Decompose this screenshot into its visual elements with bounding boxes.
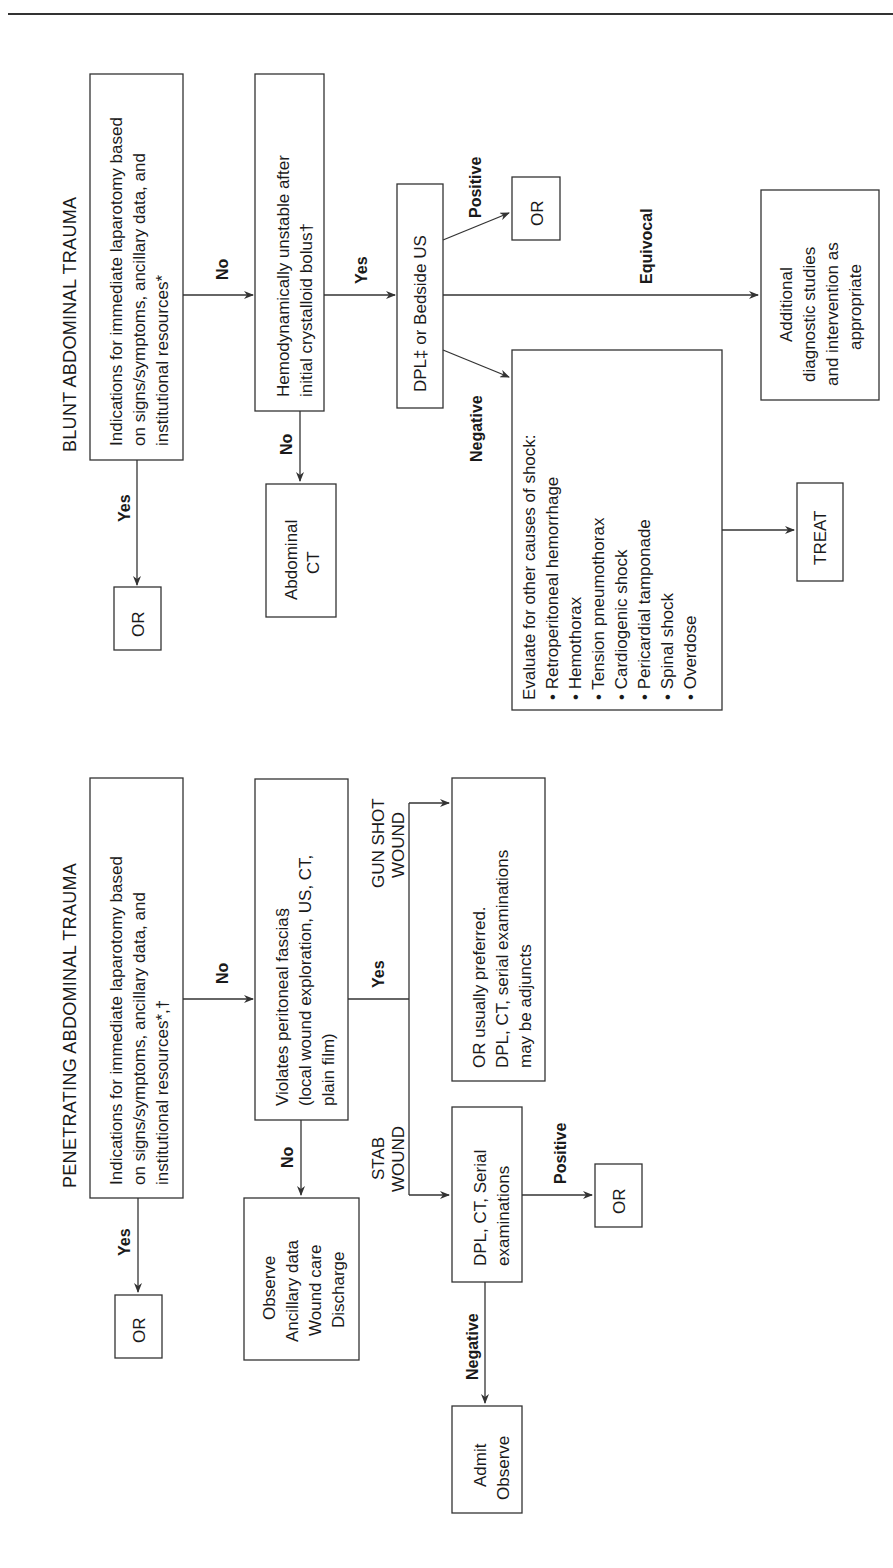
evaluate-item: • Spinal shock (658, 592, 677, 700)
abdominal-ct-line-2: CT (304, 551, 323, 574)
penetrating-yes-label: Yes (116, 1228, 133, 1256)
stab-label-line-1: STAB (369, 1137, 388, 1180)
violates-line-2: (local wound exploration, US, CT, (296, 855, 315, 1106)
evaluate-heading: Evaluate for other causes of shock: (520, 434, 539, 700)
blunt-or2-text: OR (528, 201, 547, 227)
abdominal-ct-line-1: Abdominal (282, 520, 301, 600)
blunt-indications-line-2: on signs/symptoms, ancillary data, and (130, 153, 149, 446)
gunshot-box-line-3: may be adjuncts (516, 944, 535, 1068)
dpl-ct-line-1: DPL, CT, Serial (471, 1150, 490, 1266)
gunshot-label-line-2: WOUND (389, 812, 408, 878)
violates-no-label: No (279, 1146, 296, 1168)
evaluate-item: • Tension pneumothorax (589, 517, 608, 700)
gunshot-box-line-1: OR usually preferred. (470, 906, 489, 1068)
evaluate-item: • Hemothorax (566, 596, 585, 700)
penetrating-or-text: OR (130, 1318, 149, 1344)
blunt-indications-line-3: institutional resources* (153, 275, 172, 446)
violates-line-3: plain film) (319, 1033, 338, 1106)
additional-line-2: diagnostic studies (800, 247, 819, 382)
blunt-title: BLUNT ABDOMINAL TRAUMA (60, 197, 80, 452)
hemodynamic-no-label: No (278, 433, 295, 455)
dpl-equivocal-label: Equivocal (638, 208, 655, 284)
evaluate-item: • Retroperitoneal hemorrhage (543, 477, 562, 700)
stab-negative-label: Negative (464, 1313, 481, 1380)
gunshot-box-line-2: DPL, CT, serial examinations (493, 850, 512, 1068)
dpl-positive-label: Positive (467, 157, 484, 218)
observe-line-1: Observe (260, 1256, 279, 1320)
penetrating-indications-line-1: Indications for immediate laparotomy bas… (107, 856, 126, 1185)
evaluate-item: • Overdose (681, 616, 700, 700)
additional-line-1: Additional (777, 267, 796, 342)
penetrating-indications-line-2: on signs/symptoms, ancillary data, and (130, 892, 149, 1185)
penetrating-title: PENETRATING ABDOMINAL TRAUMA (60, 863, 80, 1188)
dpl-ct-line-2: examinations (494, 1166, 513, 1266)
admit-line-1: Admit (471, 1443, 490, 1487)
observe-line-2: Ancillary data (283, 1239, 302, 1342)
dpl-negative-arrow (443, 350, 509, 377)
gunshot-label-line-1: GUN SHOT (369, 798, 388, 888)
hemodynamic-line-2: initial crystalloid bolus† (297, 223, 316, 397)
abdominal-ct-box (266, 484, 336, 617)
stab-label-line-2: WOUND (389, 1126, 408, 1192)
penetrating-or2-text: OR (610, 1189, 629, 1215)
dpl-negative-label: Negative (468, 395, 485, 462)
trauma-flowchart: BLUNT ABDOMINAL TRAUMA Indications for i… (0, 0, 893, 1568)
admit-line-2: Observe (494, 1436, 513, 1500)
hemodynamic-line-1: Hemodynamically unstable after (274, 155, 293, 397)
violates-yes-label: Yes (370, 960, 387, 988)
blunt-section: BLUNT ABDOMINAL TRAUMA Indications for i… (60, 74, 879, 710)
dpl-bedside-us-text: DPL‡ or Bedside US (411, 235, 430, 392)
penetrating-no-label: No (214, 962, 231, 984)
violates-line-1: Violates peritoneal fascia§ (273, 908, 292, 1106)
observe-line-3: Wound care (306, 1245, 325, 1336)
blunt-yes-label: Yes (116, 494, 133, 522)
penetrating-indications-line-3: institutional resources*,† (153, 1000, 172, 1185)
additional-line-3: and intervention as (823, 242, 842, 386)
stab-positive-label: Positive (552, 1123, 569, 1184)
treat-text: TREAT (811, 511, 830, 565)
blunt-no-label: No (214, 258, 231, 280)
observe-line-4: Discharge (329, 1251, 348, 1328)
blunt-or-text: OR (129, 612, 148, 638)
additional-line-4: appropriate (846, 264, 865, 350)
hemodynamic-yes-label: Yes (353, 256, 370, 284)
blunt-indications-line-1: Indications for immediate laparotomy bas… (107, 117, 126, 446)
evaluate-item: • Pericardial tamponade (635, 519, 654, 700)
evaluate-item: • Cardiogenic shock (612, 549, 631, 700)
penetrating-section: PENETRATING ABDOMINAL TRAUMA Indications… (60, 778, 642, 1513)
